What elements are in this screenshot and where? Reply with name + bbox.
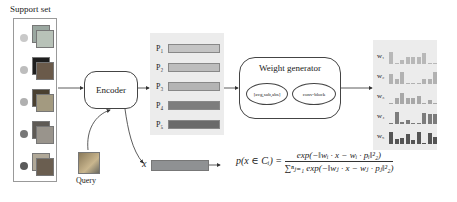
weight-bar (417, 96, 421, 104)
weight-bar (422, 103, 426, 104)
weight-bar (400, 122, 404, 124)
prototype-label: P₅ (156, 120, 168, 129)
weight-bar (428, 63, 432, 64)
support-image (36, 158, 54, 176)
weight-bar (395, 63, 399, 64)
weight-label: w₃ (377, 92, 389, 100)
weight-label: w₄ (377, 112, 389, 120)
weight-bar (389, 132, 393, 144)
weight-bar (411, 98, 415, 104)
weight-bar (406, 57, 410, 64)
weight-bar (433, 103, 437, 104)
weight-bar (389, 74, 393, 84)
weight-bar (400, 60, 404, 64)
ops-label: [avg,sub,abs] (254, 92, 281, 97)
weight-bar (411, 123, 415, 124)
weight-bar (395, 139, 399, 144)
encoder-block: Encoder (84, 71, 138, 109)
weight-generator-block: Weight generator [avg,sub,abs] conv-bloc… (239, 57, 341, 119)
prototype-label: P₄ (156, 101, 168, 110)
support-set-title: Support set (10, 4, 51, 14)
weight-label: w₂ (377, 72, 389, 80)
query-image (78, 152, 100, 174)
weight-bar (406, 83, 410, 84)
prototypes-panel: P₁P₂P₃P₄P₅ (150, 33, 224, 135)
query-embedding-bar (151, 160, 209, 171)
weight-bar (395, 79, 399, 84)
class-dot (20, 130, 28, 138)
weight-row: w₁ (377, 48, 439, 64)
weight-bar (428, 100, 432, 104)
weight-bar (411, 140, 415, 144)
prototype-bar (168, 101, 220, 110)
weight-bar (406, 98, 410, 104)
prototype-row: P₂ (156, 60, 220, 74)
weight-bar (422, 143, 426, 144)
support-image (36, 94, 54, 112)
support-image (36, 126, 54, 144)
conv-block-label: conv-block (303, 92, 326, 97)
formula-fraction: exp(−‖wᵢ · x − wᵢ · pᵢ‖²₂) ∑ⁿⱼ₌₁ exp(−‖w… (285, 150, 394, 173)
prototype-label: P₂ (156, 63, 168, 72)
weight-bar (417, 83, 421, 84)
prototype-bar (168, 63, 220, 72)
prototype-row: P₃ (156, 79, 220, 93)
prototype-row: P₅ (156, 117, 220, 131)
weight-bar (395, 98, 399, 104)
weight-bar (406, 120, 410, 124)
weight-bar (422, 113, 426, 124)
encoder-label: Encoder (96, 85, 126, 95)
weight-bar (400, 72, 404, 84)
weight-bar (395, 112, 399, 124)
weight-row: w₄ (377, 108, 439, 124)
weight-bar (433, 137, 437, 144)
weight-bar (400, 138, 404, 144)
weight-bar (433, 114, 437, 124)
weight-bar (433, 63, 437, 64)
prototype-row: P₄ (156, 98, 220, 112)
formula-denominator: ∑ⁿⱼ₌₁ exp(−‖wⱼ · x − wⱼ · pⱼ‖²₂) (285, 162, 394, 173)
weight-bar (389, 103, 393, 104)
probability-formula: p(x ∈ Cᵢ) = exp(−‖wᵢ · x − wᵢ · pᵢ‖²₂) ∑… (236, 150, 393, 173)
prototype-bar (168, 82, 220, 91)
weight-row: w₂ (377, 68, 439, 84)
prototype-bar (168, 44, 220, 53)
query-label: Query (76, 176, 96, 185)
formula-numerator: exp(−‖wᵢ · x − wᵢ · pᵢ‖²₂) (285, 150, 394, 162)
weight-label: w₅ (377, 132, 389, 140)
weight-bar (406, 134, 410, 144)
weight-bar (400, 93, 404, 104)
formula-lhs: p(x ∈ Cᵢ) = (236, 155, 282, 166)
weight-bar (428, 79, 432, 84)
weights-panel: w₁w₂w₃w₄w₅ (373, 40, 437, 150)
class-dot (20, 98, 28, 106)
prototype-label: P₁ (156, 44, 168, 53)
prototype-bar (168, 120, 220, 129)
weight-bar (389, 123, 393, 124)
weight-bar (411, 83, 415, 84)
class-dot (20, 66, 28, 74)
weight-bar (422, 53, 426, 64)
weight-row: w₃ (377, 88, 439, 104)
support-image (36, 62, 54, 80)
weight-label: w₁ (377, 52, 389, 60)
weight-bar (428, 114, 432, 124)
class-dot (20, 34, 28, 42)
weight-bar (422, 79, 426, 84)
weight-bar (417, 123, 421, 124)
query-embedding-label: x (142, 158, 146, 169)
weight-generator-title: Weight generator (240, 63, 340, 73)
weight-bar (417, 132, 421, 144)
weight-bar (428, 133, 432, 144)
class-dot (20, 162, 28, 170)
weight-bar (389, 52, 393, 64)
weight-row: w₅ (377, 128, 439, 144)
ops-ellipse: [avg,sub,abs] (246, 83, 288, 105)
weight-bar (433, 72, 437, 84)
conv-block-ellipse: conv-block (292, 83, 336, 105)
weight-bar (417, 57, 421, 64)
weight-bar (411, 57, 415, 64)
prototype-label: P₃ (156, 82, 168, 91)
prototype-row: P₁ (156, 41, 220, 55)
support-image (36, 30, 54, 48)
